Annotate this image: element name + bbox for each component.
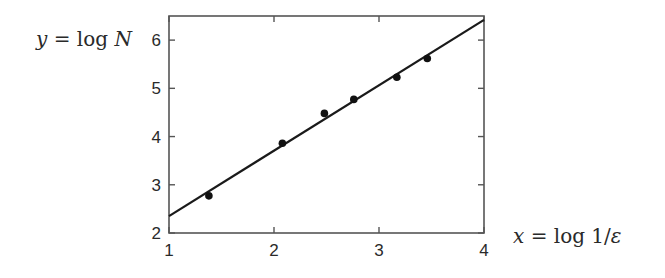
y-tick-label: 5 [152,79,161,98]
tick-labels: 123423456 [152,31,489,260]
data-points [205,55,431,200]
y-tick-label: 2 [152,224,161,243]
fit-line [169,20,484,216]
regression-line [169,20,484,216]
chart: 123423456 y = log N x = log 1/ε [0,0,665,278]
data-point [321,110,329,118]
y-tick-label: 4 [152,128,161,147]
data-point [393,73,401,81]
x-tick-label: 2 [269,241,278,260]
x-tick-label: 3 [374,241,383,260]
y-tick-label: 6 [152,31,161,50]
y-axis-title: y = log N [35,27,133,51]
x-tick-label: 4 [479,241,488,260]
x-tick-label: 1 [164,241,173,260]
data-point [350,96,358,104]
data-point [205,192,213,200]
data-point [424,55,432,63]
x-axis-title: x = log 1/ε [513,224,622,248]
y-tick-label: 3 [152,176,161,195]
data-point [279,140,287,148]
